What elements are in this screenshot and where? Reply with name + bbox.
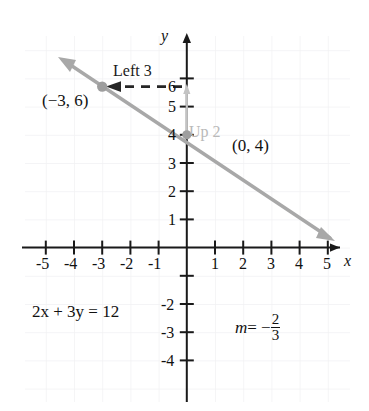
x-tick-label-5: 5 (323, 256, 331, 272)
slope-variable: m (235, 318, 247, 337)
x-tick-label-neg4: -4 (64, 256, 77, 272)
x-tick-label-4: 4 (295, 256, 303, 272)
point-label-neg3-6: (−3, 6) (42, 92, 88, 109)
y-tick-label-3: 3 (168, 156, 176, 172)
y-tick-label-neg3: -3 (161, 325, 174, 341)
x-tick-label-2: 2 (239, 256, 247, 272)
x-tick-label-neg3: -3 (92, 256, 105, 272)
x-tick-label-1: 1 (211, 256, 219, 272)
equation-label: 2x + 3y = 12 (32, 303, 119, 320)
point-label-0-4: (0, 4) (232, 137, 269, 154)
left-step-label: Left 3 (113, 63, 152, 79)
y-tick-label-4: 4 (168, 127, 176, 143)
point-marker-neg3-6 (97, 81, 107, 91)
slope-label: m= −23 (235, 313, 280, 345)
y-tick-label-6: 6 (168, 79, 176, 95)
y-axis-label: y (161, 28, 168, 44)
x-axis-label: x (344, 253, 351, 269)
slope-numerator: 2 (271, 312, 281, 328)
y-tick-label-5: 5 (168, 99, 176, 115)
coordinate-plane (0, 0, 369, 411)
x-tick-label-neg1: -1 (148, 256, 161, 272)
y-tick-label-neg4: -4 (161, 353, 174, 369)
y-tick-label-neg2: -2 (161, 297, 174, 313)
up-step-label: Up 2 (189, 124, 221, 140)
x-tick-label-3: 3 (267, 256, 275, 272)
slope-equals: = − (247, 318, 270, 337)
slope-denominator: 3 (271, 328, 281, 343)
x-tick-label-neg2: -2 (120, 256, 133, 272)
y-tick-label-2: 2 (168, 184, 176, 200)
slope-fraction: 23 (271, 312, 281, 344)
graph-figure: y x -5 -4 -3 -2 -1 1 2 3 4 5 1 2 3 4 5 6… (0, 0, 369, 411)
x-tick-label-neg5: -5 (36, 256, 49, 272)
y-tick-label-1: 1 (168, 212, 176, 228)
